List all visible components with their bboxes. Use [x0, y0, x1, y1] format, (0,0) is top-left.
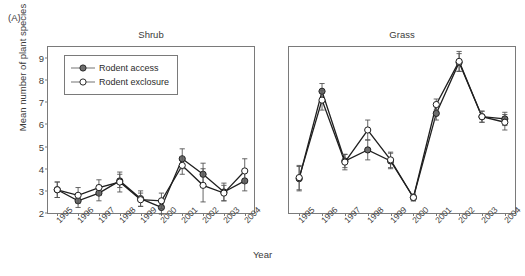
data-point: [54, 182, 60, 197]
data-point: [117, 172, 123, 192]
marker-open-circle: [158, 198, 164, 204]
y-tick-label: 5: [39, 141, 44, 152]
marker-open-circle: [365, 127, 371, 133]
marker-open-circle: [137, 197, 143, 203]
y-axis-title: Mean number of plant species: [17, 0, 28, 148]
legend-label-rodent-exclosure: Rodent exclosure: [99, 77, 169, 87]
marker-open-circle: [96, 184, 102, 190]
marker-open-circle: [319, 97, 325, 103]
plot-panel-shrub: Shrub 23456789 1995199619971998199920002…: [47, 46, 255, 214]
legend-item-rodent-access: Rodent access: [70, 61, 169, 75]
panel-title-shrub: Shrub: [48, 29, 254, 40]
data-layer-grass: [289, 47, 515, 213]
marker-open-circle: [221, 190, 227, 196]
legend-marker-filled-circle-icon: [70, 62, 96, 74]
marker-open-circle: [54, 187, 60, 193]
series-line-rodent-exclosure: [299, 61, 505, 197]
series-line-rodent-exclosure: [57, 165, 244, 200]
marker-open-circle: [387, 157, 393, 163]
marker-open-circle: [502, 119, 508, 125]
y-tick-label: 4: [39, 163, 44, 174]
marker-open-circle: [75, 192, 81, 198]
marker-open-circle: [342, 159, 348, 165]
marker-filled-circle: [433, 110, 439, 116]
marker-open-circle: [456, 58, 462, 64]
marker-open-circle: [296, 174, 302, 180]
marker-open-circle: [179, 162, 185, 168]
figure-container: (A) Mean number of plant species Year Sh…: [0, 0, 525, 276]
legend-marker-open-circle-icon: [70, 76, 96, 88]
data-point: [137, 193, 143, 206]
marker-filled-circle: [365, 147, 371, 153]
y-tick-label: 2: [39, 208, 44, 219]
panel-title-grass: Grass: [289, 29, 515, 40]
data-point: [365, 120, 371, 140]
y-tick-label: 6: [39, 119, 44, 130]
legend-item-rodent-exclosure: Rodent exclosure: [70, 75, 169, 89]
marker-open-circle: [479, 114, 485, 120]
marker-open-circle: [117, 179, 123, 185]
legend: Rodent access Rodent exclosure: [64, 55, 178, 95]
y-tick-label: 9: [39, 53, 44, 64]
data-point: [410, 194, 416, 201]
data-point: [221, 185, 227, 200]
legend-label-rodent-access: Rodent access: [99, 63, 159, 73]
series-line-rodent-access: [299, 62, 505, 197]
marker-open-circle: [242, 168, 248, 174]
y-tick-label: 3: [39, 185, 44, 196]
plot-panel-grass: Grass 1995199619971998199920002001200220…: [288, 46, 516, 214]
data-point: [365, 140, 371, 160]
marker-open-circle: [200, 182, 206, 188]
x-axis-title: Year: [0, 249, 525, 260]
y-tick-label: 7: [39, 97, 44, 108]
y-tick-label: 8: [39, 75, 44, 86]
marker-open-circle: [410, 194, 416, 200]
marker-open-circle: [433, 101, 439, 107]
